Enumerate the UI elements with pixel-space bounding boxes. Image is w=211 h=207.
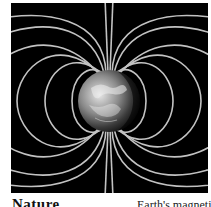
earth-globe [78, 70, 140, 132]
caption-subtitle: Earth's magnetic [137, 198, 211, 207]
figure-caption: Nature Earth's magnetic [12, 196, 211, 207]
caption-title: Nature [12, 196, 60, 207]
magnetic-field-figure [11, 3, 208, 193]
field-lines-illustration [11, 3, 208, 193]
